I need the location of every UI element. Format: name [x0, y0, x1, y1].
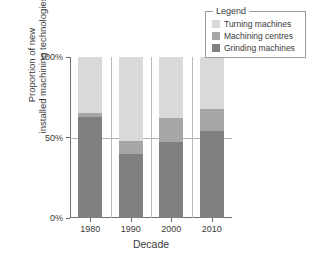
legend-item-machining-centres[interactable]: Machining centres — [212, 31, 300, 41]
x-tick-mark-2010 — [212, 218, 213, 222]
legend-title: Legend — [213, 6, 249, 16]
legend-swatch-icon — [212, 20, 220, 28]
x-tick-label-1980: 1980 — [80, 224, 100, 234]
bar-segment-2010-turning-machines — [200, 57, 224, 109]
bar-segment-2010-grinding-machines — [200, 131, 224, 218]
bar-2000 — [159, 57, 183, 218]
legend-items: Turning machinesMachining centresGrindin… — [212, 19, 300, 53]
y-tick-mark — [66, 57, 70, 58]
legend-swatch-icon — [212, 32, 220, 40]
bar-1990 — [119, 57, 143, 218]
x-axis-title: Decade — [133, 238, 169, 250]
y-tick-label: 0% — [50, 213, 66, 223]
x-tick-mark-2000 — [171, 218, 172, 222]
bar-segment-2010-machining-centres — [200, 109, 224, 132]
bar-segment-1990-turning-machines — [119, 57, 143, 141]
y-axis-title-line-1: Proportion of new — [25, 28, 36, 102]
bar-segment-1980-turning-machines — [78, 57, 102, 113]
legend-item-label: Machining centres — [224, 31, 293, 41]
y-axis-title: Proportion of new installed machining te… — [20, 0, 54, 153]
y-axis-title-line-2: installed machining technologies — [37, 0, 48, 133]
y-tick-mark — [66, 137, 70, 138]
y-tick-label: 50% — [45, 133, 66, 143]
category-separator — [111, 57, 112, 218]
legend-swatch-icon — [212, 44, 220, 52]
legend-item-label: Turning machines — [224, 19, 291, 29]
legend-item-turning-machines[interactable]: Turning machines — [212, 19, 300, 29]
chart-container: Proportion of new installed machining te… — [0, 0, 313, 256]
x-tick-mark-1990 — [131, 218, 132, 222]
bar-segment-1990-machining-centres — [119, 141, 143, 154]
bar-segment-1980-machining-centres — [78, 113, 102, 116]
plot-area: 0%50%100% 1980199020002010 Decade — [70, 57, 232, 218]
bar-segment-1990-grinding-machines — [119, 154, 143, 218]
bar-segment-2000-grinding-machines — [159, 142, 183, 218]
category-separator — [192, 57, 193, 218]
x-tick-label-1990: 1990 — [121, 224, 141, 234]
bar-1980 — [78, 57, 102, 218]
legend-item-label: Grinding machines — [224, 43, 295, 53]
category-separator — [151, 57, 152, 218]
bar-2010 — [200, 57, 224, 218]
y-tick-label: 100% — [40, 52, 66, 62]
legend: Legend Turning machinesMachining centres… — [205, 11, 306, 58]
bar-segment-2000-machining-centres — [159, 118, 183, 142]
legend-item-grinding-machines[interactable]: Grinding machines — [212, 43, 300, 53]
x-tick-label-2010: 2010 — [202, 224, 222, 234]
x-tick-mark-1980 — [90, 218, 91, 222]
y-tick-mark — [66, 218, 70, 219]
x-tick-label-2000: 2000 — [161, 224, 181, 234]
bar-segment-1980-grinding-machines — [78, 117, 102, 218]
bar-segment-2000-turning-machines — [159, 57, 183, 118]
